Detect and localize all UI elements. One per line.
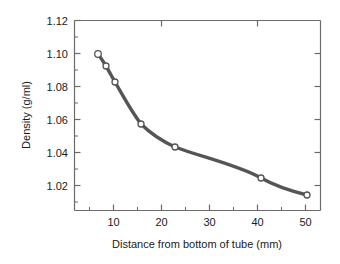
y-tick-label: 1.10 [47, 48, 68, 60]
chart-svg: 1.12 1.10 1.08 1.06 1.04 1.02 10 20 30 4… [0, 0, 340, 264]
data-point [138, 121, 144, 127]
x-axis-title: Distance from bottom of tube (mm) [112, 238, 282, 250]
y-tick-label: 1.06 [47, 114, 68, 126]
data-point [103, 63, 109, 69]
y-tick-label: 1.08 [47, 81, 68, 93]
x-tick-label: 10 [107, 216, 119, 228]
data-point [304, 192, 310, 198]
data-point [95, 51, 102, 58]
chart-figure: 1.12 1.10 1.08 1.06 1.04 1.02 10 20 30 4… [0, 0, 340, 264]
data-point [258, 175, 264, 181]
x-tick-label: 30 [203, 216, 215, 228]
y-tick-label: 1.02 [47, 180, 68, 192]
x-tick-label: 40 [251, 216, 263, 228]
x-tick-label: 20 [155, 216, 167, 228]
data-point [112, 79, 118, 85]
y-axis-title: Density (g/ml) [20, 81, 32, 149]
chart-background [0, 0, 340, 264]
x-tick-label: 50 [299, 216, 311, 228]
y-tick-label: 1.04 [47, 147, 68, 159]
data-point [172, 144, 178, 150]
y-tick-label: 1.12 [47, 15, 68, 27]
